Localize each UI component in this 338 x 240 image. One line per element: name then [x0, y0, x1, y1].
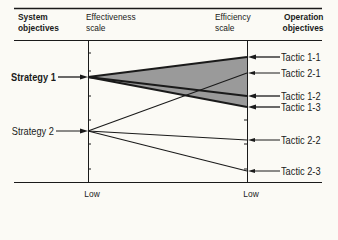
tactic-1-1-label: Tactic 1-1 — [281, 51, 321, 63]
strategy-2-label: Strategy 2 — [12, 125, 54, 137]
tactic-arrows — [248, 55, 280, 174]
strategy-1-arrowhead-icon — [80, 75, 88, 80]
tactic-2-1-label: Tactic 2-1 — [281, 67, 321, 79]
tactic-1-3-label: Tactic 1-3 — [281, 101, 321, 113]
strategy-1-label: Strategy 1 — [11, 71, 56, 83]
tactic-2-3-label: Tactic 2-3 — [281, 165, 321, 177]
strategy-2-arrowhead-icon — [80, 129, 88, 134]
efficiency-low-label: Low — [243, 188, 258, 199]
effectiveness-low-label: Low — [84, 188, 99, 199]
tactic-2-2-label: Tactic 2-2 — [281, 134, 321, 146]
strategy-arrows — [56, 75, 88, 134]
efficiency-axis-ticks — [244, 120, 247, 169]
